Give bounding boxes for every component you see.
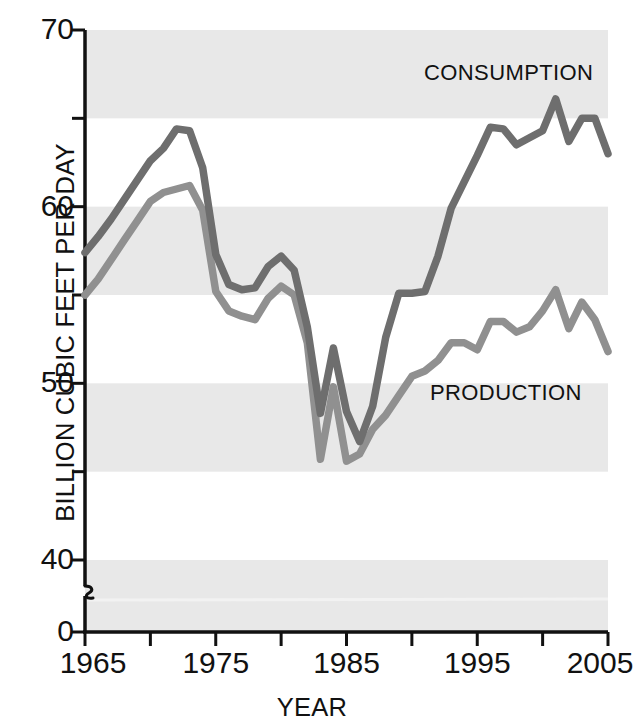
series-label-production: PRODUCTION [430,380,582,406]
x-tick-label: 1995 [444,648,511,678]
x-tick-label: 2005 [567,648,633,678]
tick-marks [72,30,608,646]
x-tick-label: 1965 [60,648,127,678]
y-tick-label: 0 [14,616,74,646]
x-tick-label: 1985 [313,648,380,678]
series-label-consumption: CONSUMPTION [424,60,593,86]
y-axis-title: BILLION CUBIC FEET PER DAY [51,83,80,583]
x-tick-label-group: 19651975198519952005 [0,648,624,688]
x-axis-title: YEAR [0,693,624,722]
y-tick-label: 70 [14,14,74,44]
x-tick-label: 1975 [182,648,249,678]
axis-lines [83,30,608,632]
band-group [85,30,608,632]
